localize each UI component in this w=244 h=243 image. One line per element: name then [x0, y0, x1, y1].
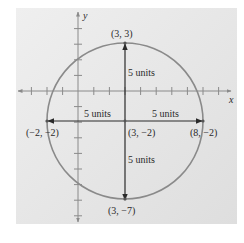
- point-bottom: [123, 197, 126, 200]
- figure-background: [16, 8, 237, 224]
- y-axis-label: y: [82, 10, 88, 21]
- label-right-point: (8, −2): [190, 127, 217, 139]
- label-top-point: (3, 3): [111, 28, 133, 40]
- radius-label-down: 5 units: [128, 154, 155, 165]
- label-center-point: (3, −2): [128, 127, 155, 139]
- circle-diagram: x y: [0, 0, 244, 243]
- radius-label-up: 5 units: [128, 67, 155, 78]
- label-left-point: (−2, −2): [26, 127, 59, 139]
- point-left: [45, 119, 48, 122]
- x-axis-label: x: [228, 94, 234, 105]
- point-center: [124, 120, 127, 123]
- radius-label-left: 5 units: [84, 108, 111, 119]
- label-bottom-point: (3, −7): [108, 205, 135, 217]
- point-top: [123, 41, 126, 44]
- radius-label-right: 5 units: [152, 108, 179, 119]
- point-right: [201, 119, 204, 122]
